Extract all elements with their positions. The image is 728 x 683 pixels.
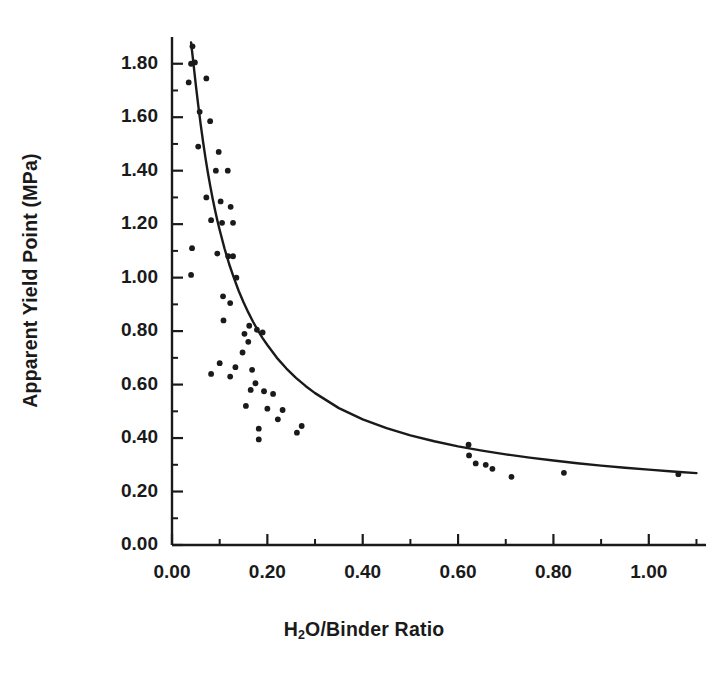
data-point <box>245 339 251 345</box>
y-tick-label: 1.00 <box>80 266 158 288</box>
data-point <box>253 380 259 386</box>
data-point <box>221 318 227 324</box>
data-point <box>243 403 249 409</box>
data-point <box>240 350 246 356</box>
data-point <box>483 462 489 468</box>
data-point <box>220 293 226 299</box>
data-point <box>190 43 196 49</box>
y-tick-label: 1.20 <box>80 212 158 234</box>
data-point <box>270 391 276 397</box>
data-point <box>254 327 260 333</box>
data-point <box>197 109 203 115</box>
y-axis-ticks <box>172 64 183 545</box>
data-point <box>227 374 233 380</box>
x-tick-label: 0.20 <box>227 561 307 583</box>
data-point <box>217 360 223 366</box>
data-point <box>675 471 681 477</box>
y-tick-label: 0.20 <box>80 480 158 502</box>
data-point <box>256 426 262 432</box>
x-tick-label: 0.60 <box>418 561 498 583</box>
data-point <box>186 80 192 86</box>
data-point <box>248 387 254 393</box>
data-point <box>189 245 195 251</box>
data-point <box>242 331 248 337</box>
data-point <box>299 423 305 429</box>
data-point <box>225 168 231 174</box>
data-point <box>261 388 267 394</box>
data-point <box>466 453 472 459</box>
data-point <box>294 430 300 436</box>
data-point <box>203 195 209 201</box>
data-point <box>208 217 214 223</box>
data-point <box>213 168 219 174</box>
data-point <box>203 76 209 82</box>
y-tick-label: 0.60 <box>80 373 158 395</box>
data-point <box>218 199 224 205</box>
x-tick-label: 1.00 <box>609 561 689 583</box>
y-tick-label: 1.40 <box>80 159 158 181</box>
data-point <box>219 220 225 226</box>
data-point <box>275 416 281 422</box>
data-point <box>246 323 252 329</box>
data-point <box>260 330 266 336</box>
data-point <box>230 220 236 226</box>
y-tick-label: 0.00 <box>80 533 158 555</box>
data-point <box>264 406 270 412</box>
data-point <box>280 407 286 413</box>
y-tick-label: 0.80 <box>80 319 158 341</box>
y-tick-label: 1.80 <box>80 52 158 74</box>
x-axis-ticks <box>172 534 696 545</box>
y-tick-label: 1.60 <box>80 105 158 127</box>
data-point <box>490 466 496 472</box>
data-point <box>466 442 472 448</box>
data-point <box>256 436 262 442</box>
x-tick-label: 0.40 <box>323 561 403 583</box>
data-point <box>561 470 567 476</box>
y-tick-label: 0.40 <box>80 426 158 448</box>
x-tick-label: 0.80 <box>513 561 593 583</box>
data-point <box>509 474 515 480</box>
data-point <box>233 275 239 281</box>
data-point <box>230 253 236 259</box>
data-point <box>208 371 214 377</box>
data-point <box>227 300 233 306</box>
data-point <box>216 149 222 155</box>
x-tick-label: 0.00 <box>132 561 212 583</box>
chart-figure: Apparent Yield Point (MPa) H2O/Binder Ra… <box>0 0 728 683</box>
data-points-group <box>186 43 681 479</box>
data-point <box>228 204 234 210</box>
data-point <box>192 60 198 66</box>
data-point <box>473 461 479 467</box>
data-point <box>249 367 255 373</box>
data-point <box>188 272 194 278</box>
data-point <box>207 118 213 124</box>
data-point <box>195 144 201 150</box>
data-point <box>233 364 239 370</box>
data-point <box>214 251 220 257</box>
